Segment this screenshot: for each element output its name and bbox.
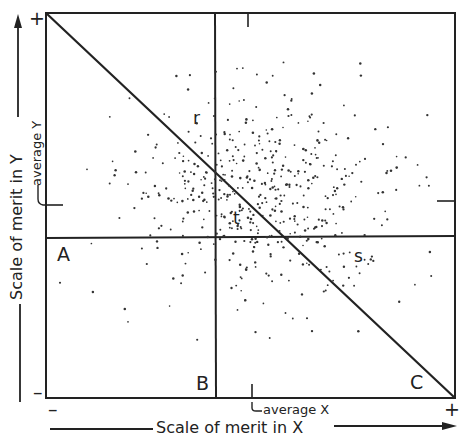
y-axis-arrow-head [14,14,22,28]
x-axis-title: Scale of merit in X [156,420,303,436]
label-a: A [57,245,70,264]
average-x-pointer [252,402,262,411]
diagonal-line [46,13,455,398]
y-minus-sign: – [33,383,43,402]
y-axis-title: Scale of merit in Y [9,154,25,300]
label-c: C [410,373,423,392]
y-plus-sign: + [29,9,45,28]
horizontal-line-a [46,236,455,238]
label-t: t [233,210,240,227]
x-plus-sign: + [444,400,460,419]
average-x-label: average X [263,403,329,416]
label-b: B [196,374,209,393]
x-minus-sign: – [48,400,58,419]
average-y-label: average Y [30,121,43,186]
vertical-line-b [215,13,216,398]
label-s: s [354,248,363,265]
average-y-pointer [38,185,46,205]
x-axis-arrow-head [442,422,457,430]
label-r: r [193,110,200,127]
